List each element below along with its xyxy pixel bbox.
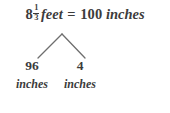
whole-number: 8	[25, 6, 32, 22]
branch-line-right	[62, 34, 85, 58]
fraction-one-third: 13	[33, 4, 39, 23]
fraction-denominator: 3	[33, 14, 39, 23]
fraction-numerator: 1	[33, 4, 39, 13]
right-unit-label: inches	[106, 6, 145, 22]
child-right-unit: inches	[52, 76, 108, 92]
equation-line: 813feet = 100 inches	[0, 4, 170, 24]
number-bond-diagram: 813feet = 100 inches 96 inches 4 inches	[0, 0, 170, 113]
child-node-right: 4 inches	[52, 58, 108, 92]
right-value: 100	[80, 6, 102, 22]
child-right-value: 4	[52, 58, 108, 74]
equals-sign: =	[66, 6, 76, 22]
branch-line-left	[38, 34, 62, 58]
left-unit-label: feet	[41, 6, 63, 22]
